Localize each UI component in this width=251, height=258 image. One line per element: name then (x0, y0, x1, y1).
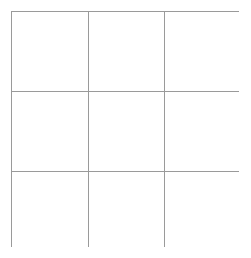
grid-cell-label (12, 12, 88, 91)
grid-cell-r1c1[interactable] (12, 12, 88, 91)
grid-cell-label (165, 92, 242, 171)
grid-cell-r1c2[interactable] (89, 12, 164, 91)
grid-cell-label (89, 172, 164, 250)
grid-cell-r3c3[interactable] (165, 172, 242, 250)
grid-cell-label (12, 92, 88, 171)
grid-cell-r3c1[interactable] (12, 172, 88, 250)
grid-3x3 (11, 11, 239, 247)
grid-cell-r1c3[interactable] (165, 12, 242, 91)
grid-cell-label (165, 12, 242, 91)
grid-cell-r2c1[interactable] (12, 92, 88, 171)
grid-cell-r2c3[interactable] (165, 92, 242, 171)
grid-cell-label (89, 92, 164, 171)
grid-cell-r2c2[interactable] (89, 92, 164, 171)
grid-cell-label (89, 12, 164, 91)
grid-cell-r3c2[interactable] (89, 172, 164, 250)
page-canvas (0, 0, 251, 258)
grid-cell-label (165, 172, 242, 250)
grid-cell-label (12, 172, 88, 250)
